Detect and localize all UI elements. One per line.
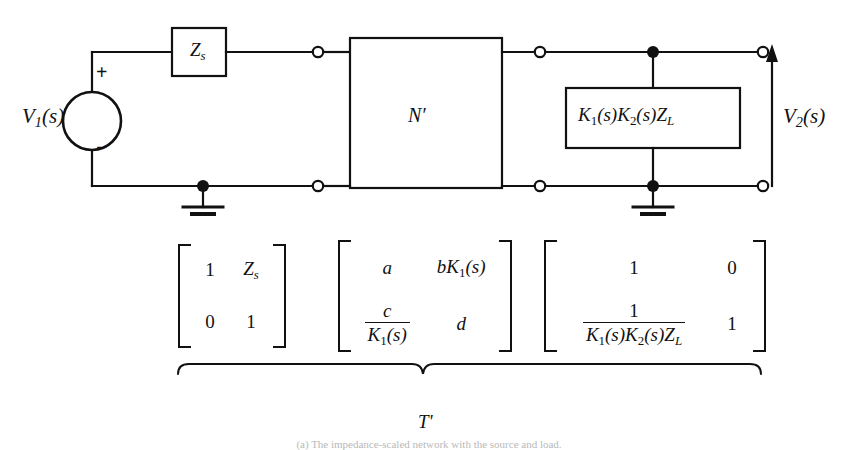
network-matrix-right-bracket: [499, 240, 512, 352]
load-matrix-fraction: 1 K1(s)K2(s)ZL: [583, 300, 685, 347]
network-matrix-cell-1-2: bK1(s): [437, 256, 486, 281]
source-matrix-right-bracket: [273, 244, 286, 348]
terminal-open-in-bottom: [313, 181, 323, 191]
terminal-open-mid-top: [535, 47, 545, 57]
two-port-network-base: N: [408, 104, 421, 126]
load-matrix-cell-2-1: 1 K1(s)K2(s)ZL: [583, 300, 685, 347]
network-matrix-fraction: c K1(s): [365, 300, 410, 347]
network-matrix-fraction-denominator: K1(s): [365, 322, 410, 348]
junction-dot-load-top: [647, 46, 659, 58]
overall-transmission-matrix-label: T': [418, 412, 433, 431]
network-matrix-cell-1-1: a: [382, 257, 392, 279]
source-matrix-cell-1-1: 1: [205, 259, 215, 281]
source-voltage-base: V: [22, 104, 35, 128]
load-matrix-cell-1-2: 0: [727, 257, 737, 279]
two-port-network-box: [350, 38, 502, 188]
series-impedance-label: Zs: [190, 40, 206, 63]
load-matrix-fraction-numerator: 1: [583, 300, 685, 321]
source-matrix-cell-1-2: Zs: [243, 258, 259, 283]
network-matrix-cell-2-2: d: [456, 313, 466, 335]
junction-dot-ground-left: [197, 180, 209, 192]
circuit-schematic: [0, 0, 858, 450]
terminal-open-out-top: [758, 47, 768, 57]
junction-dot-load-bottom: [647, 180, 659, 192]
source-voltage-subscript: 1: [35, 114, 42, 130]
output-voltage-arg: (s): [803, 104, 825, 128]
load-impedance-label: K1(s)K2(s)ZL: [578, 105, 674, 128]
load-matrix-left-bracket: [544, 240, 557, 352]
figure-container: V1(s) + − Zs N′ K1(s)K2(s)ZL V2(s) 1 Zs …: [0, 0, 858, 450]
overall-underbrace: [178, 364, 761, 374]
output-voltage-label: V2(s): [783, 106, 825, 129]
terminal-open-mid-bottom: [535, 181, 545, 191]
source-voltage-arg: (s): [42, 104, 64, 128]
network-matrix-left-bracket: [338, 240, 351, 352]
output-voltage-base: V: [783, 104, 796, 128]
load-matrix-right-bracket: [753, 240, 766, 352]
source-plus-terminal-label: +: [96, 62, 107, 82]
load-matrix-fraction-denominator: K1(s)K2(s)ZL: [583, 322, 685, 348]
terminal-open-out-bottom: [758, 181, 768, 191]
figure-caption: (a) The impedance-scaled network with th…: [0, 438, 858, 450]
terminal-open-in-top: [313, 47, 323, 57]
load-matrix-cell-2-2: 1: [727, 313, 737, 335]
load-matrix: 1 0 1 K1(s)K2(s)ZL 1: [544, 240, 766, 352]
two-port-network-prime: ′: [421, 104, 425, 126]
series-impedance-base: Z: [190, 39, 201, 60]
two-port-network-label: N′: [408, 105, 426, 125]
source-matrix-cell-2-2: 1: [246, 311, 256, 333]
source-minus-terminal-label: −: [96, 137, 107, 157]
source-matrix-cell-2-1: 0: [205, 311, 215, 333]
source-voltage-label: V1(s): [22, 106, 64, 129]
load-matrix-cell-1-1: 1: [629, 257, 639, 279]
source-matrix-left-bracket: [178, 244, 191, 348]
series-impedance-subscript: s: [201, 48, 206, 63]
voltage-source-symbol: [63, 92, 121, 150]
output-voltage-subscript: 2: [796, 114, 803, 130]
network-matrix-cell-2-1: c K1(s): [365, 300, 410, 347]
network-matrix-fraction-numerator: c: [365, 300, 410, 321]
network-matrix: a bK1(s) c K1(s) d: [338, 240, 512, 352]
source-matrix: 1 Zs 0 1: [178, 244, 286, 348]
